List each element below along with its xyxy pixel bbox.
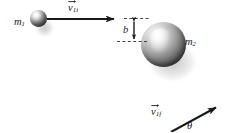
final-velocity-label-stack: v [151, 107, 156, 118]
mass-1-label: m1 [14, 17, 25, 28]
mass-2-label-text: m [185, 36, 193, 47]
mass-1-sphere [30, 10, 47, 27]
vector-arrow-accent-icon [68, 0, 76, 3]
final-velocity-symbol: v [151, 106, 156, 117]
initial-velocity-symbol: v [68, 2, 73, 13]
final-velocity-label: v1f [151, 107, 161, 118]
mass-2-label-subscript: 2 [193, 40, 196, 47]
mass-2-sphere [141, 22, 186, 67]
initial-velocity-subscript: 1i [73, 6, 78, 14]
scattering-angle-label: θ [187, 121, 192, 132]
mass-1-label-text: m [14, 16, 22, 27]
initial-velocity-label: v1i [68, 3, 78, 14]
final-velocity-vector [171, 108, 216, 133]
mass-1-label-subscript: 1 [22, 20, 25, 27]
final-velocity-subscript: 1f [156, 110, 161, 118]
initial-velocity-label-stack: v [68, 3, 73, 14]
vector-arrow-accent-icon [151, 103, 159, 107]
impact-parameter-label: b [123, 25, 128, 36]
mass-2-label: m2 [185, 37, 196, 48]
collision-diagram-figure: m1 m2 b θ v1i v1f [0, 0, 227, 132]
